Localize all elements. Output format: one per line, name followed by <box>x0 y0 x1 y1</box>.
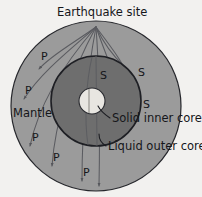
p-wave-label: P <box>41 51 48 62</box>
earthquake-wave-diagram: Earthquake site Mantle Solid inner core … <box>0 0 202 197</box>
mantle-label: Mantle <box>13 108 52 120</box>
earth-cross-section-graphic <box>0 0 202 197</box>
p-wave-label: P <box>53 152 60 163</box>
p-wave-label: P <box>25 85 32 96</box>
s-wave-label: S <box>143 99 150 110</box>
s-wave-label: S <box>138 67 145 78</box>
p-wave-label: P <box>32 132 39 143</box>
liquid-outer-core-label: Liquid outer core <box>108 141 202 153</box>
solid-inner-core-label: Solid inner core <box>112 113 202 125</box>
page-title: Earthquake site <box>57 7 147 19</box>
p-wave-label: P <box>83 167 90 178</box>
s-wave-label: S <box>100 70 107 81</box>
